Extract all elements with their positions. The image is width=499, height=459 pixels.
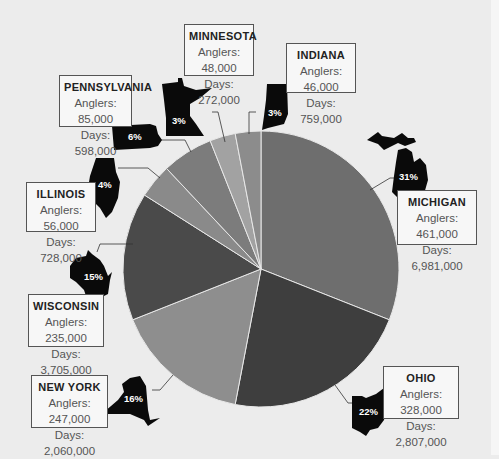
michigan-shape-icon (367, 132, 428, 198)
days-value: Days: 272,000 (189, 76, 249, 108)
pie-slices (123, 131, 399, 407)
state-name: ILLINOIS (31, 186, 91, 202)
days-value: Days: 2,060,000 (36, 427, 103, 459)
anglers-value: Anglers: 85,000 (64, 95, 127, 127)
label-illinois: ILLINOIS Anglers: 56,000 Days: 728,000 (26, 182, 96, 232)
state-name: NEW YORK (36, 379, 103, 395)
pct-michigan: 31% (399, 171, 419, 182)
anglers-value: Anglers: 235,000 (33, 314, 99, 346)
label-minnesota: MINNESOTA Anglers: 48,000 Days: 272,000 (184, 24, 254, 76)
anglers-value: Anglers: 48,000 (189, 44, 249, 76)
days-value: Days: 759,000 (291, 95, 351, 127)
label-ohio: OHIO Anglers: 328,000 Days: 2,807,000 (383, 366, 459, 419)
anglers-value: Anglers: 328,000 (388, 386, 454, 418)
pct-wisconsin: 15% (84, 271, 104, 282)
pct-indiana: 3% (268, 107, 282, 118)
anglers-value: Anglers: 247,000 (36, 395, 103, 427)
state-name: WISCONSIN (33, 298, 99, 314)
anglers-value: Anglers: 46,000 (291, 63, 351, 95)
label-indiana: INDIANA Anglers: 46,000 Days: 759,000 (286, 43, 356, 93)
label-newyork: NEW YORK Anglers: 247,000 Days: 2,060,00… (31, 375, 108, 428)
pct-pennsylvania: 6% (128, 131, 142, 142)
state-name: PENNSYLVANIA (64, 79, 127, 95)
pct-ohio: 22% (359, 406, 379, 417)
pct-newyork: 16% (124, 393, 144, 404)
pct-illinois: 4% (98, 179, 112, 190)
days-value: Days: 3,705,000 (33, 346, 99, 378)
label-pennsylvania: PENNSYLVANIA Anglers: 85,000 Days: 598,0… (59, 75, 132, 127)
label-michigan: MICHIGAN Anglers: 461,000 Days: 6,981,00… (397, 190, 477, 245)
days-value: Days: 2,807,000 (388, 418, 454, 450)
pct-minnesota: 3% (172, 115, 186, 126)
anglers-value: Anglers: 56,000 (31, 202, 91, 234)
anglers-value: Anglers: 461,000 (402, 210, 472, 242)
state-name: MINNESOTA (189, 28, 249, 44)
days-value: Days: 728,000 (31, 234, 91, 266)
label-wisconsin: WISCONSIN Anglers: 235,000 Days: 3,705,0… (28, 294, 104, 347)
days-value: Days: 6,981,000 (402, 242, 472, 274)
state-name: OHIO (388, 370, 454, 386)
state-name: INDIANA (291, 47, 351, 63)
state-name: MICHIGAN (402, 194, 472, 210)
days-value: Days: 598,000 (64, 127, 127, 159)
